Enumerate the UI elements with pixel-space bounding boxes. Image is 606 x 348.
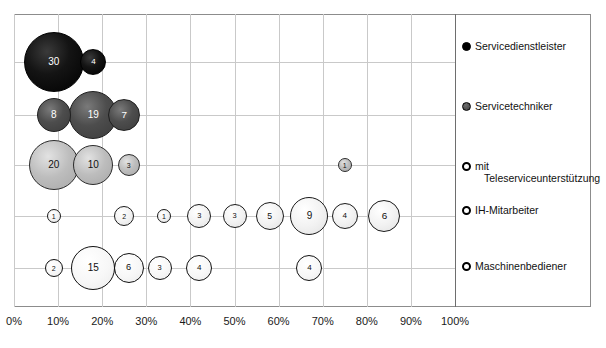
x-axis-tick-label: 30% [135,315,157,327]
vertical-gridline [367,14,368,307]
legend-item-label: Servicedienstleister [475,40,566,52]
bubble-value: 15 [88,263,99,273]
bubble[interactable]: 2 [114,206,134,226]
filled-black-circle-icon [462,42,471,51]
bubble[interactable]: 8 [37,98,71,132]
x-axis-tick-label: 0% [6,315,22,327]
bubble[interactable]: 4 [332,203,358,229]
bubble[interactable]: 3 [118,154,140,176]
bubble-value: 4 [343,212,347,220]
bubble-value: 8 [51,110,57,120]
vertical-gridline [279,14,280,307]
bubble-value: 30 [48,57,59,67]
bubble[interactable]: 4 [186,255,212,281]
filled-gray-circle-icon [462,102,471,111]
open-circle-icon [462,262,471,271]
chart-legend: ServicedienstleisterServicetechnikermitT… [462,14,602,307]
bubble-value: 10 [88,160,99,170]
bubble-value: 1 [162,213,166,220]
open-circle-icon [462,162,471,171]
bubble[interactable]: 3 [187,204,211,228]
bubble-value: 3 [157,264,161,271]
bubble[interactable]: 6 [368,200,400,232]
x-axis-tick-label: 90% [400,315,422,327]
x-axis-tick-label: 20% [91,315,113,327]
bubble[interactable]: 20 [29,140,79,190]
bubble[interactable]: 4 [296,255,322,281]
bubble[interactable]: 15 [71,246,115,290]
bubble[interactable]: 5 [256,202,284,230]
x-axis-tick-label: 100% [441,315,469,327]
legend-item-ih-mitarbeiter[interactable]: IH-Mitarbeiter [462,204,602,216]
bubble-value: 4 [197,264,201,272]
x-axis-tick-label: 70% [312,315,334,327]
legend-divider [455,14,456,307]
bubble[interactable]: 3 [148,256,172,280]
bubble-value: 3 [127,162,131,169]
legend-item-maschinenbediener[interactable]: Maschinenbediener [462,260,602,272]
bubble[interactable]: 30 [24,32,84,92]
bubble-value: 9 [307,211,313,221]
bubble[interactable]: 1 [47,209,61,223]
legend-item-label-line2: Teleserviceunterstützung [475,172,600,184]
bubble-value: 7 [121,110,127,120]
bubble-chart: 30481972010311213359462156344 0%10%20%30… [0,0,606,348]
x-axis-tick-label: 60% [268,315,290,327]
bubble-value: 4 [307,264,311,272]
chart-title [0,0,606,6]
legend-item-teleservice[interactable]: mitTeleserviceunterstützung [462,160,602,184]
legend-item-servicetechniker[interactable]: Servicetechniker [462,100,602,112]
bubble[interactable]: 6 [114,253,144,283]
bubble[interactable]: 1 [157,209,171,223]
plot-area: 30481972010311213359462156344 [14,14,455,307]
bubble-value: 5 [267,212,272,221]
bubble-value: 19 [88,110,99,120]
bubble-value: 4 [91,58,95,66]
vertical-gridline [14,14,15,307]
bubble-value: 3 [232,212,236,219]
bubble[interactable]: 2 [45,259,63,277]
bubble-value: 2 [52,265,56,272]
vertical-gridline [323,14,324,307]
bubble-value: 3 [197,212,201,219]
x-axis-tick-label: 10% [47,315,69,327]
legend-item-label: Maschinenbediener [475,260,567,272]
open-circle-icon [462,206,471,215]
vertical-gridline [235,14,236,307]
bubble-value: 1 [52,213,56,220]
bubble[interactable]: 7 [108,99,140,131]
x-axis-tick-label: 80% [356,315,378,327]
legend-item-servicedienstleister[interactable]: Servicedienstleister [462,40,602,52]
bubble-value: 6 [126,263,131,272]
bubble-value: 2 [122,213,126,220]
x-axis-tick-label: 40% [179,315,201,327]
bubble[interactable]: 3 [223,204,247,228]
legend-item-label: IH-Mitarbeiter [475,204,539,216]
x-axis-tick-label: 50% [223,315,245,327]
bubble[interactable]: 10 [73,145,113,185]
vertical-gridline [411,14,412,307]
bubble[interactable]: 1 [338,158,352,172]
bubble-value: 20 [48,160,59,170]
bubble-value: 6 [382,211,388,221]
bubble-value: 1 [343,162,347,169]
vertical-gridline [146,14,147,307]
legend-item-label: Servicetechniker [475,100,553,112]
legend-item-label: mitTeleserviceunterstützung [475,160,600,184]
